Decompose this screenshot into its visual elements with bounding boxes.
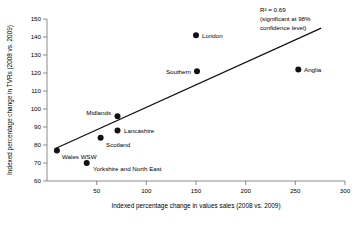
data-point-lancashire[interactable] [115,128,121,134]
trend-line [55,28,321,149]
data-point-yorkshire-and-north-east[interactable] [84,160,90,166]
x-tick-label-200: 200 [241,187,252,194]
x-tick-label-100: 100 [141,187,152,194]
y-tick-label-110: 110 [31,87,41,94]
y-tick-label-100: 100 [31,105,42,112]
x-tick-label-50: 50 [93,187,100,194]
y-tick-label-90: 90 [34,123,41,130]
r-squared-annotation: R² = 0.69 (significant at 98% confidence… [260,6,311,31]
data-point-london[interactable] [193,32,199,38]
point-label-yorkshire-and-north-east: Yorkshire and North East [93,165,162,172]
y-tick-label-120: 120 [31,69,42,76]
data-point-wales-wsw[interactable] [54,147,60,153]
y-tick-label-140: 140 [31,33,42,40]
data-point-anglia[interactable] [295,66,301,72]
data-point-southern[interactable] [194,68,200,74]
x-axis-ticks [97,181,345,185]
scatter-chart: 150 140 130 120 110 100 90 80 70 60 50 1… [0,0,355,226]
x-tick-label-250: 250 [290,187,301,194]
x-tick-label-300: 300 [340,187,351,194]
y-tick-label-70: 70 [34,159,41,166]
point-label-wales-wsw: Wales WSW [62,153,97,160]
x-tick-label-150: 150 [191,187,202,194]
point-label-london: London [202,32,223,39]
x-axis-title: Indexed percentage change in values sale… [111,202,280,210]
annotation-line-3: confidence level) [260,24,306,31]
y-tick-label-80: 80 [34,141,41,148]
point-label-southern: Southern [166,68,192,75]
data-point-scotland[interactable] [98,135,104,141]
y-tick-label-60: 60 [34,177,41,184]
y-tick-label-130: 130 [31,51,42,58]
y-axis-ticks [43,19,47,181]
data-point-midlands[interactable] [115,113,121,119]
annotation-line-2: (significant at 98% [260,15,311,22]
point-label-anglia: Anglia [304,66,322,73]
point-label-midlands: Midlands [86,109,111,116]
y-axis-title: Indexed percentage change in TVRs (2008 … [6,25,14,175]
point-label-scotland: Scotland [106,141,131,148]
point-label-lancashire: Lancashire [124,127,155,134]
y-tick-label-150: 150 [31,15,42,22]
annotation-line-1: R² = 0.69 [260,6,286,13]
chart-canvas: 150 140 130 120 110 100 90 80 70 60 50 1… [0,0,355,226]
data-points [54,32,301,166]
